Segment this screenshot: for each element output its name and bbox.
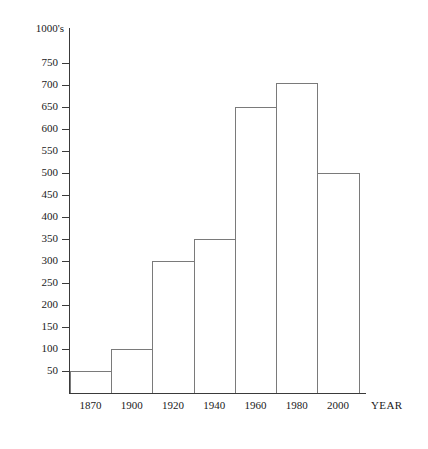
bar <box>111 349 153 393</box>
plot-area <box>70 28 366 393</box>
y-axis-tick-label: 150 <box>6 321 58 332</box>
y-axis-tick-label: 50 <box>6 365 58 376</box>
y-axis-tick <box>62 173 70 174</box>
y-axis-tick-label: 500 <box>6 167 58 178</box>
x-axis-tick-label: 2000 <box>308 399 368 411</box>
y-axis-tick <box>62 283 70 284</box>
bar <box>194 239 236 393</box>
y-axis-tick-label: 550 <box>6 145 58 156</box>
y-axis-tick <box>62 107 70 108</box>
y-axis-tick-label: 350 <box>6 233 58 244</box>
y-axis-tick <box>62 63 70 64</box>
y-axis-tick <box>62 217 70 218</box>
bar <box>70 371 112 393</box>
bar <box>317 173 359 393</box>
y-axis-tick-label: 600 <box>6 123 58 134</box>
bar-chart: 1000's 750700650600550500450400350300250… <box>0 0 428 449</box>
y-axis-tick-label: 400 <box>6 211 58 222</box>
bar <box>235 107 277 393</box>
y-axis-tick-label: 250 <box>6 277 58 288</box>
bar <box>276 83 318 393</box>
y-axis-tick <box>62 305 70 306</box>
x-axis-line <box>69 393 366 394</box>
y-axis-tick <box>62 349 70 350</box>
y-axis-tick <box>62 195 70 196</box>
y-axis-tick-label: 700 <box>6 79 58 90</box>
y-axis-tick-label: 650 <box>6 101 58 112</box>
y-axis-tick-label: 300 <box>6 255 58 266</box>
y-axis-tick <box>62 261 70 262</box>
y-axis-tick <box>62 239 70 240</box>
y-axis-tick-label: 100 <box>6 343 58 354</box>
y-axis-tick <box>62 327 70 328</box>
y-axis-unit-label: 1000's <box>8 22 64 34</box>
bar <box>152 261 194 393</box>
y-axis-tick-label: 200 <box>6 299 58 310</box>
y-axis-tick <box>62 85 70 86</box>
y-axis-tick <box>62 151 70 152</box>
y-axis-tick <box>62 371 70 372</box>
y-axis-tick-label: 750 <box>6 57 58 68</box>
y-axis-tick-label: 450 <box>6 189 58 200</box>
x-axis-title: YEAR <box>371 399 403 411</box>
y-axis-tick <box>62 129 70 130</box>
